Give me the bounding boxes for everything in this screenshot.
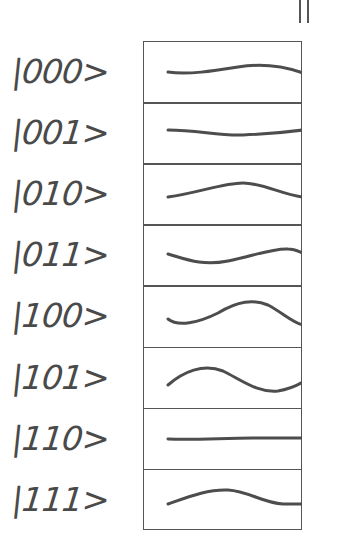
- waveform-icon: [143, 102, 302, 163]
- waveform-icon: [143, 347, 302, 408]
- waveform-icon: [143, 41, 302, 102]
- waveform-cell: [143, 163, 302, 224]
- waveform-cell: [143, 41, 302, 102]
- waveform-cell: [143, 408, 302, 469]
- marker-bar-right: [307, 0, 309, 23]
- marker-bar-left: [299, 0, 301, 23]
- state-label: |110>: [10, 419, 139, 459]
- state-label: |001>: [10, 113, 139, 153]
- waveform-cell: [143, 102, 302, 163]
- state-label: |111>: [10, 480, 139, 520]
- waveform-icon: [143, 469, 302, 530]
- waveform-icon: [143, 285, 302, 346]
- waveform-cell: [143, 224, 302, 285]
- state-label: |101>: [10, 358, 139, 398]
- waveform-icon: [143, 163, 302, 224]
- waveform-cell: [143, 469, 302, 530]
- state-label: |000>: [10, 52, 139, 92]
- waveform-icon: [143, 224, 302, 285]
- waveform-cell: [143, 285, 302, 346]
- state-label: |010>: [10, 174, 139, 214]
- waveform-cell: [143, 347, 302, 408]
- state-label: |100>: [10, 296, 139, 336]
- state-label: |011>: [10, 235, 139, 275]
- waveform-icon: [143, 408, 302, 469]
